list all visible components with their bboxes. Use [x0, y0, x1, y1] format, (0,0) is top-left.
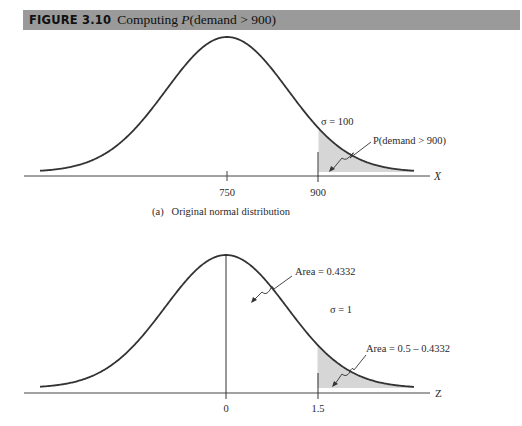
annotation-area-tail: Area = 0.5 – 0.4332 [366, 343, 450, 354]
standard-normal-curve [40, 255, 414, 387]
tick-label-900: 900 [310, 187, 326, 198]
normal-curve [40, 37, 414, 171]
tick-label-0: 0 [223, 403, 228, 414]
panel-b: 0 1.5 Z σ = 1 Area = 0.4332 Area = 0.5 –… [24, 255, 450, 414]
figure-canvas: 750 900 X σ = 100 P(demand > 900) (a) Or… [0, 0, 522, 426]
annotation-area-center: Area = 0.4332 [295, 266, 355, 277]
annotation-p-demand: P(demand > 900) [373, 135, 446, 147]
sigma-label: σ = 1 [330, 304, 352, 315]
tick-label-750: 750 [219, 187, 235, 198]
axis-label-x: X [433, 170, 442, 182]
panel-a: 750 900 X σ = 100 P(demand > 900) (a) Or… [24, 37, 446, 218]
sigma-label: σ = 100 [321, 116, 354, 127]
axis-label-z: Z [435, 387, 442, 399]
panel-a-caption: (a) Original normal distribution [152, 206, 291, 218]
tick-label-1-5: 1.5 [311, 403, 324, 414]
